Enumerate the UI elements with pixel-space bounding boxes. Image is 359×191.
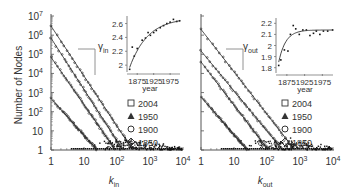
inset-point <box>309 35 311 37</box>
inset-point <box>287 50 289 52</box>
right-panel: 110102103104 γout kout <box>198 14 340 188</box>
inset-x-tick-label: 1975 <box>313 78 331 87</box>
inset-point <box>327 30 329 32</box>
legend-label: 1900 <box>138 125 158 135</box>
inset-point <box>313 33 315 35</box>
left-inset: 22.22.42.6187519251975 year <box>112 16 181 93</box>
inset-y-tick-label: 2.4 <box>112 33 124 42</box>
inset-y-tick-label: 2.1 <box>261 30 273 39</box>
figure: Number of Nodes 110102103104105106107 11… <box>0 0 359 191</box>
inset-x-tick-label: 1975 <box>161 77 179 86</box>
x-tick-label: 10 <box>228 156 240 167</box>
x-tick-label: 103 <box>142 155 157 167</box>
inset-point <box>173 19 175 21</box>
y-tick-label: 107 <box>28 10 43 22</box>
triangle-marker-icon <box>282 113 289 120</box>
gamma-out-label: γout <box>243 41 258 54</box>
y-tick-label: 105 <box>28 48 43 60</box>
y-tick-label: 103 <box>28 87 43 99</box>
inset-fit-curve <box>130 21 180 68</box>
inset-point <box>147 32 149 34</box>
inset-point <box>284 49 286 51</box>
right-inset: 1.81.922.12.2187519251975 year <box>261 18 334 94</box>
inset-y-tick-label: 2.6 <box>112 20 124 29</box>
right-inset-x-label: year <box>297 85 313 94</box>
legend-label: 1900 <box>292 125 312 135</box>
left-inset-x-label: year <box>142 84 158 93</box>
inset-point <box>295 28 297 30</box>
inset-point <box>290 34 292 36</box>
inset-point <box>319 34 321 36</box>
y-tick-label: 1 <box>37 145 43 156</box>
x-tick-label: 1 <box>48 156 54 167</box>
inset-point <box>298 34 300 36</box>
x-tick-label: 103 <box>292 155 307 167</box>
y-tick-label: 104 <box>28 67 43 79</box>
y-tick-label: 102 <box>28 106 43 118</box>
x-tick-label: 102 <box>259 155 274 167</box>
x-tick-label: 104 <box>325 155 340 167</box>
circle-marker-icon <box>128 126 134 132</box>
legend-label: 1850 <box>292 138 312 148</box>
square-marker-icon <box>128 100 134 106</box>
inset-point <box>292 25 294 27</box>
inset-y-tick-label: 2.2 <box>261 19 273 28</box>
y-axis-label: Number of Nodes <box>13 46 24 124</box>
inset-point <box>280 59 282 61</box>
inset-point <box>278 65 280 67</box>
x-tick-label: 102 <box>109 155 124 167</box>
y-tick-label: 10 <box>32 126 44 137</box>
inset-x-tick-label: 1875 <box>278 78 296 87</box>
inset-y-tick-label: 1.9 <box>261 53 273 62</box>
inset-fit-curve <box>279 30 333 62</box>
right-x-axis-label: kout <box>258 175 273 188</box>
legend-label: 2004 <box>138 99 158 109</box>
left-scatter-data <box>50 25 183 151</box>
inset-point <box>153 32 155 34</box>
left-x-axis-label: kin <box>109 175 120 188</box>
inset-point <box>129 69 131 71</box>
inset-y-tick-label: 2.2 <box>112 47 124 56</box>
x-tick-label: 104 <box>175 155 190 167</box>
gamma-out-bracket <box>226 49 243 70</box>
legend-label: 1950 <box>138 112 158 122</box>
legend-label: 1850 <box>138 138 158 148</box>
inset-y-tick-label: 2 <box>268 42 273 51</box>
x-tick-label: 1 <box>198 156 204 167</box>
legend-label: 1950 <box>292 112 312 122</box>
x-tick-label: 10 <box>78 156 90 167</box>
inset-point <box>141 39 143 41</box>
gamma-in-label: γin <box>98 41 109 54</box>
inset-y-tick-label: 2 <box>119 61 124 70</box>
inset-y-tick-label: 1.8 <box>261 64 273 73</box>
y-tick-label: 106 <box>28 29 43 41</box>
circle-marker-icon <box>282 126 288 132</box>
square-marker-icon <box>282 100 288 106</box>
left-panel: 110102103104105106107 110102103104 γin k… <box>28 10 191 188</box>
triangle-marker-icon <box>128 113 135 120</box>
inset-point <box>150 35 152 37</box>
legend-label: 2004 <box>292 99 312 109</box>
inset-point <box>131 46 133 48</box>
inset-point <box>323 30 325 32</box>
left-y-ticks: 110102103104105106107 <box>28 10 54 156</box>
